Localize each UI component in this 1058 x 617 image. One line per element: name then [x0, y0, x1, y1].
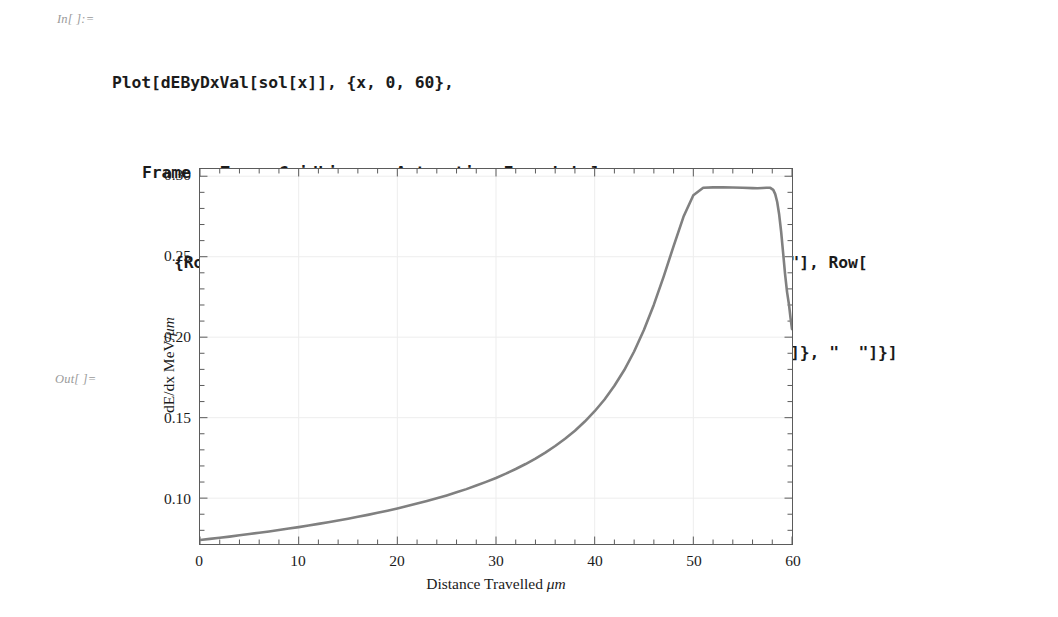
mathematica-notebook: In[ ]:= Plot[dEByDxVal[sol[x]], {x, 0, 6… — [0, 0, 1058, 617]
x-tick-label: 50 — [686, 552, 702, 570]
y-axis-title: dE/dx MeV/μm — [160, 250, 178, 480]
y-tick-label: 0.30 — [137, 166, 191, 184]
y-tick-label: 0.10 — [137, 490, 191, 508]
x-axis-title: Distance Travelled μm — [199, 575, 793, 593]
y-axis-unit: μm — [160, 317, 177, 336]
x-tick-label: 20 — [389, 552, 405, 570]
output-cell-label: Out[ ]= — [55, 372, 96, 387]
gridlines — [200, 169, 792, 544]
plot-canvas — [200, 169, 792, 544]
x-axis-unit: μm — [547, 575, 566, 592]
y-axis-title-text: dE/dx MeV/ — [160, 336, 177, 413]
code-line-1: Plot[dEByDxVal[sol[x]], {x, 0, 60}, — [112, 68, 1042, 98]
x-tick-label: 0 — [195, 552, 203, 570]
output-plot: 0.100.150.200.250.30 0102030405060 Dista… — [108, 160, 868, 610]
x-axis-title-text: Distance Travelled — [426, 575, 543, 592]
input-cell-label: In[ ]:= — [57, 12, 94, 27]
x-tick-label: 30 — [488, 552, 504, 570]
x-tick-label: 60 — [785, 552, 801, 570]
x-tick-label: 40 — [587, 552, 603, 570]
x-tick-label: 10 — [290, 552, 306, 570]
plot-frame — [199, 168, 793, 545]
